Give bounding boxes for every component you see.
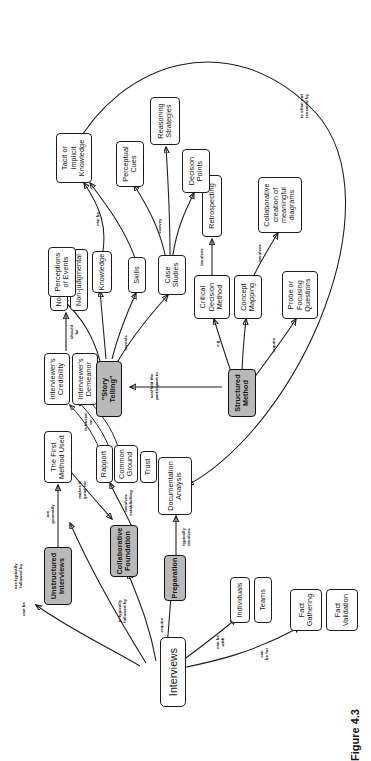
node-interviews[interactable]: Interviews bbox=[160, 637, 186, 707]
edge-label-eg: e.g. bbox=[216, 335, 221, 351]
edge-label-makes-it-good-for: makes it good for bbox=[78, 473, 88, 507]
figure-caption: Figure 4.3 bbox=[349, 709, 361, 761]
node-tacit-knowledge[interactable]: Tacit or Implicit Knowledge bbox=[56, 133, 92, 183]
node-case-studies[interactable]: Case Studies bbox=[158, 255, 186, 295]
edge-label-is-often-not-revealed-by: is often not revealed by bbox=[300, 85, 310, 127]
node-rapport[interactable]: Rapport bbox=[96, 445, 113, 483]
edge-label-can-be-tacit: can be bbox=[96, 207, 101, 231]
edge-label-convey: convey bbox=[158, 213, 163, 239]
node-knowledge[interactable]: Knowledge bbox=[92, 251, 112, 293]
node-individuals[interactable]: Individuals bbox=[230, 577, 250, 623]
node-skills[interactable]: Skills bbox=[128, 257, 146, 293]
node-interviewers-demeanor[interactable]: Interviewer's Demeanor bbox=[72, 353, 98, 405]
edge-label-reveals: reveals bbox=[124, 329, 129, 357]
edge-label-can-be-for: can be for bbox=[260, 641, 270, 667]
node-decision-points[interactable]: Decision Points bbox=[182, 149, 210, 193]
node-collaborative-foundation[interactable]: Collaborative Foundation bbox=[110, 525, 138, 577]
edge-label-involves-cm: involves bbox=[258, 239, 263, 267]
node-probe-focusing-questions[interactable]: Probe or Focusing Questions bbox=[282, 271, 318, 319]
edge-label-requires: require bbox=[272, 331, 277, 359]
node-trust[interactable]: Trust bbox=[140, 451, 157, 483]
node-common-ground[interactable]: Common Ground bbox=[114, 445, 138, 483]
node-teams[interactable]: Teams bbox=[254, 577, 272, 623]
node-fact-validation[interactable]: Fact Validation bbox=[326, 589, 358, 631]
edge-label-should-be: should be bbox=[70, 319, 80, 345]
edge-label-involves-establishing: involves establishing bbox=[124, 485, 134, 521]
edge-label-involves-cdm: involves bbox=[200, 243, 205, 271]
node-critical-decision-method[interactable]: Critical Decision Method bbox=[194, 275, 230, 319]
node-interviewers-credibility[interactable]: Interviewer's Credibility bbox=[44, 353, 70, 405]
node-structured-method[interactable]: Structured Method bbox=[228, 369, 256, 417]
edge-label-typically-involves: typically involves bbox=[182, 519, 192, 555]
node-preparation[interactable]: Preparation bbox=[164, 555, 186, 601]
edge-label-is-typically-followed-by: is typically followed by bbox=[118, 591, 128, 631]
edge-label-scaffold-participant: scaffold the participant in bbox=[150, 365, 160, 407]
edge-label-is-based-on: is based on bbox=[84, 407, 94, 437]
node-documentation-analysis[interactable]: Documentation Analysis bbox=[158, 457, 192, 515]
node-story-telling[interactable]: "Story Telling" bbox=[96, 361, 122, 417]
node-concept-mapping[interactable]: Concept Mapping bbox=[234, 275, 262, 319]
edge-label-require: require bbox=[160, 611, 165, 639]
edge-label-can-be: can be bbox=[22, 597, 27, 621]
edge-label-are-generally: are generally bbox=[46, 499, 56, 529]
edge-label-are-typically-followed-by: are typically followed by bbox=[14, 555, 24, 597]
node-reasoning-strategies[interactable]: Reasoning Strategies bbox=[150, 97, 180, 145]
node-perceptual-cues[interactable]: Perceptual Cues bbox=[116, 141, 144, 187]
edge-label-can-be-with: can be with bbox=[216, 629, 226, 655]
node-perceptions-of-events[interactable]: Perceptions of Events bbox=[48, 247, 76, 297]
node-unstructured-interviews[interactable]: Unstructured Interviews bbox=[44, 547, 72, 605]
node-first-method-used[interactable]: The First Method Used bbox=[44, 431, 72, 483]
node-fact-gathering[interactable]: Fact Gathering bbox=[290, 589, 322, 631]
node-collaborative-creation[interactable]: Collaborative creation of meaningful dia… bbox=[258, 177, 302, 233]
